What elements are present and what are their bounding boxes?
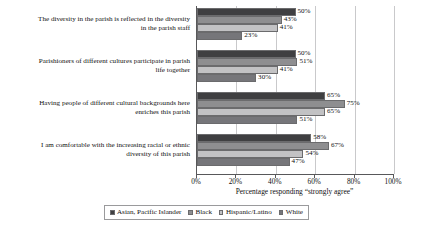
bar-row: 41% [197, 66, 394, 73]
bar-value-label: 30% [256, 74, 271, 81]
legend-swatch [188, 210, 193, 215]
category-label-line: I am comfortable with the increasing rac… [2, 141, 190, 150]
bar-value-label: 47% [290, 158, 305, 165]
category-label-line: enriches this parish [2, 108, 190, 117]
bar [197, 150, 303, 157]
legend-label: Hispanic/Latino [226, 208, 272, 217]
gridline [394, 6, 395, 174]
category-label-line: The diversity in the parish is reflected… [2, 15, 190, 24]
legend-swatch [219, 210, 224, 215]
chart-legend: Asian, Pacific IslanderBlackHispanic/Lat… [104, 205, 309, 220]
bar-value-label: 54% [303, 150, 318, 157]
bar-group: 50%43%41%23% [197, 8, 394, 39]
plot-wrapper: The diversity in the parish is reflected… [0, 0, 427, 178]
bar-value-label: 51% [297, 58, 312, 65]
bar-value-label: 65% [325, 108, 340, 115]
bar-row: 51% [197, 58, 394, 65]
category-label-line: diversity of this parish [2, 150, 190, 159]
x-axis-tick-label: 80% [347, 177, 360, 187]
legend-item: Asian, Pacific Islander [110, 208, 181, 217]
category-label-line: in the parish staff [2, 24, 190, 33]
category-axis-labels: The diversity in the parish is reflected… [0, 0, 193, 178]
category-label-line: Parishioners of different cultures parti… [2, 57, 190, 66]
bar-row: 50% [197, 50, 394, 57]
bar-row: 30% [197, 74, 394, 81]
category-label-line: Having people of different cultural back… [2, 99, 190, 108]
x-axis-tick-label: 60% [307, 177, 320, 187]
bar [197, 74, 256, 81]
bar-row: 41% [197, 24, 394, 31]
bar-row: 75% [197, 100, 394, 107]
bar [197, 158, 290, 165]
grouped-bar-chart: The diversity in the parish is reflected… [0, 0, 427, 230]
bar [197, 134, 311, 141]
bar-value-label: 65% [325, 92, 340, 99]
bar-row: 65% [197, 92, 394, 99]
bar-group: 50%51%41%30% [197, 50, 394, 81]
bar-row: 23% [197, 32, 394, 39]
bar [197, 16, 282, 23]
bar-value-label: 23% [242, 32, 257, 39]
category-label: I am comfortable with the increasing rac… [2, 141, 190, 160]
bar [197, 100, 345, 107]
bar-value-label: 41% [278, 24, 293, 31]
plot-area: 50%43%41%23%50%51%41%30%65%75%65%51%58%6… [196, 6, 394, 175]
bar-value-label: 50% [296, 8, 311, 15]
bar-row: 51% [197, 116, 394, 123]
category-label: The diversity in the parish is reflected… [2, 15, 190, 34]
x-axis-tick-label: 40% [268, 177, 281, 187]
bar-value-label: 51% [297, 116, 312, 123]
bar-row: 43% [197, 16, 394, 23]
legend-label: Asian, Pacific Islander [117, 208, 181, 217]
bar [197, 92, 325, 99]
bar [197, 32, 242, 39]
legend-label: White [286, 208, 303, 217]
legend-swatch [279, 210, 284, 215]
bar [197, 116, 297, 123]
x-axis-tick-label: 100% [384, 177, 401, 187]
bar-value-label: 58% [311, 134, 326, 141]
x-axis-tick-label: 20% [229, 177, 242, 187]
legend-item: White [279, 208, 303, 217]
bar [197, 50, 296, 57]
bar-value-label: 75% [345, 100, 360, 107]
bar-group: 65%75%65%51% [197, 92, 394, 123]
bar-value-label: 41% [278, 66, 293, 73]
legend-item: Hispanic/Latino [219, 208, 272, 217]
bar-value-label: 67% [329, 142, 344, 149]
bar-row: 67% [197, 142, 394, 149]
x-axis-tick-label: 0% [191, 177, 201, 187]
category-label: Having people of different cultural back… [2, 99, 190, 118]
category-label: Parishioners of different cultures parti… [2, 57, 190, 76]
bar-row: 58% [197, 134, 394, 141]
bar-row: 47% [197, 158, 394, 165]
legend-item: Black [188, 208, 212, 217]
bar [197, 24, 278, 31]
legend-swatch [110, 210, 115, 215]
category-label-line: life together [2, 66, 190, 75]
bar [197, 8, 296, 15]
x-axis-title: Percentage responding “strongly agree” [196, 187, 393, 197]
legend-label: Black [195, 208, 212, 217]
bar-group: 58%67%54%47% [197, 134, 394, 165]
bar-row: 65% [197, 108, 394, 115]
